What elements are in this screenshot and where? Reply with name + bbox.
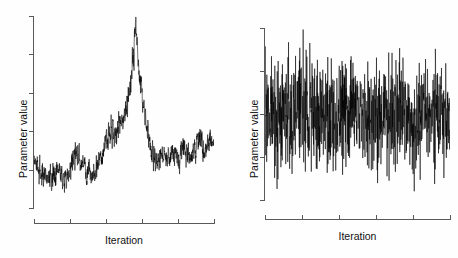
panel-well-mixing-trace: Parameter value Iteration (229, 0, 458, 258)
x-axis-label-right: Iteration (265, 230, 450, 242)
x-axis-label-left: Iteration (34, 234, 214, 246)
panel-poorly-mixing-trace: Parameter value Iteration (0, 0, 229, 258)
trace-plot-figure: Parameter value Iteration Parameter valu… (0, 0, 458, 258)
trace-line-right (265, 14, 450, 214)
trace-line-left (34, 14, 214, 210)
